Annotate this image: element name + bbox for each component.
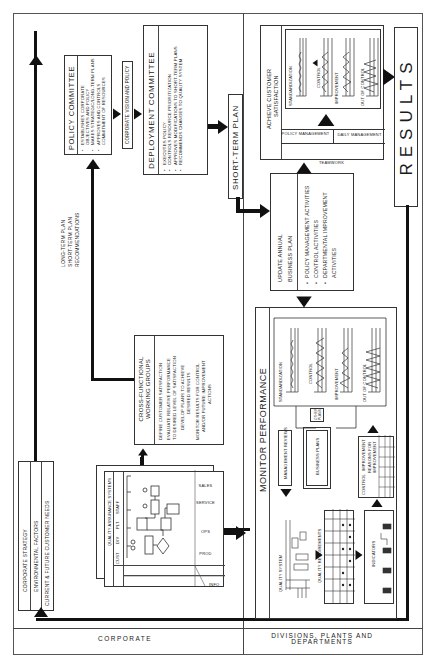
update-plan-bullets: POLICY MANAGEMENT ACTIVITIES CONTROL ACT… xyxy=(303,178,339,284)
achieve-mgmt-labels: TEAMWORK POLICY MANAGEMENT DAILY MANAGEM… xyxy=(281,129,385,159)
policy-committee-title: POLICY COMMITTEE xyxy=(67,66,76,150)
zone-divider xyxy=(243,13,244,655)
qa-systems-box: QUALITY ASSURANCE SYSTEMS CUST DIV PLT S… xyxy=(104,471,224,587)
zone-label-corporate: CORPORATE xyxy=(55,636,195,642)
achieve-box: ACHIEVE CUSTOMER SATISFACTION TEAMWORK P… xyxy=(260,25,384,160)
achieve-stages: STANDARDIZATION CONTROL IMPROVEMENT OUT … xyxy=(285,29,381,109)
update-plan-box: UPDATE ANNUAL BUSINESS PLAN POLICY MANAG… xyxy=(270,173,354,291)
deployment-committee-box: DEPLOYMENT COMMITTEE EXECUTES POLICY CON… xyxy=(143,25,208,175)
monitor-control-charts xyxy=(276,318,384,404)
input-environmental-factors: ENVIRONMENTAL FACTORS xyxy=(33,520,39,592)
input-corporate-strategy: CORPORATE STRATEGY xyxy=(22,529,28,592)
inputs-box: CORPORATE STRATEGY ENVIRONMENTAL FACTORS… xyxy=(18,461,54,611)
achieve-control-charts xyxy=(286,28,382,108)
connector-shortterm-to-update xyxy=(236,209,263,213)
arrow-recommendations-to-policy xyxy=(86,159,100,169)
short-term-plan-box: SHORT-TERM PLAN xyxy=(228,94,243,199)
arrow-vision-to-deployment xyxy=(134,108,142,119)
deployment-committee-bullets: EXECUTES POLICY CONTROLS RESOURCE PRIORI… xyxy=(162,33,184,171)
arrow-mgmt-to-stages xyxy=(318,114,335,126)
monitor-stages: STANDARDIZATION CONTROL IMPROVEMENT OUT … xyxy=(276,318,384,404)
recommendations-label: LONG-TERM PLAN SHORT-TERM PLAN RECOMMEND… xyxy=(60,212,81,267)
input-customer-needs: CURRENT & FUTURE CUSTOMER NEEDS xyxy=(44,501,50,606)
vision-label-box: CORPORATE VISION AND POLICY xyxy=(122,61,133,149)
diagram-canvas: CORPORATE DIVISIONS, PLANTS AND DEPARTME… xyxy=(0,0,436,669)
zone-label-divisions: DIVISIONS, PLANTS AND DEPARTMENTS xyxy=(257,633,387,645)
policy-committee-box: POLICY COMMITTEE ESTABLISHES CORPORATE O… xyxy=(64,55,112,155)
cross-functional-box: CROSS-FUNCTIONAL WORKING GROUPS DEFINE C… xyxy=(134,335,224,445)
connector-results-loop xyxy=(406,205,409,621)
arrow-deployment-to-shortterm xyxy=(218,120,228,134)
connector-inputs-to-policy xyxy=(34,31,37,461)
deployment-committee-title: DEPLOYMENT COMMITTEE xyxy=(147,52,156,169)
arrow-into-update-plan xyxy=(260,204,270,218)
arrow-policy-to-vision xyxy=(113,108,121,119)
arrow-qa-to-monitor xyxy=(236,526,246,540)
monitor-performance-box: MONITOR PERFORMANCE QUALITY SYSTEM QUALI… xyxy=(255,307,397,619)
arrow-into-inputs-from-feedback xyxy=(34,607,48,617)
arrow-update-to-achieve xyxy=(296,163,311,174)
results-box: RESULTS xyxy=(394,27,418,207)
arrow-into-policy xyxy=(29,55,43,65)
connector-recommendations-v xyxy=(91,169,94,379)
policy-committee-bullets: ESTABLISHES CORPORATE OBJECTIVES AND POL… xyxy=(80,57,106,151)
qa-rows: INFO PROD OPS SERVICE SALES xyxy=(197,470,225,586)
zone-strip-divider xyxy=(13,628,423,629)
